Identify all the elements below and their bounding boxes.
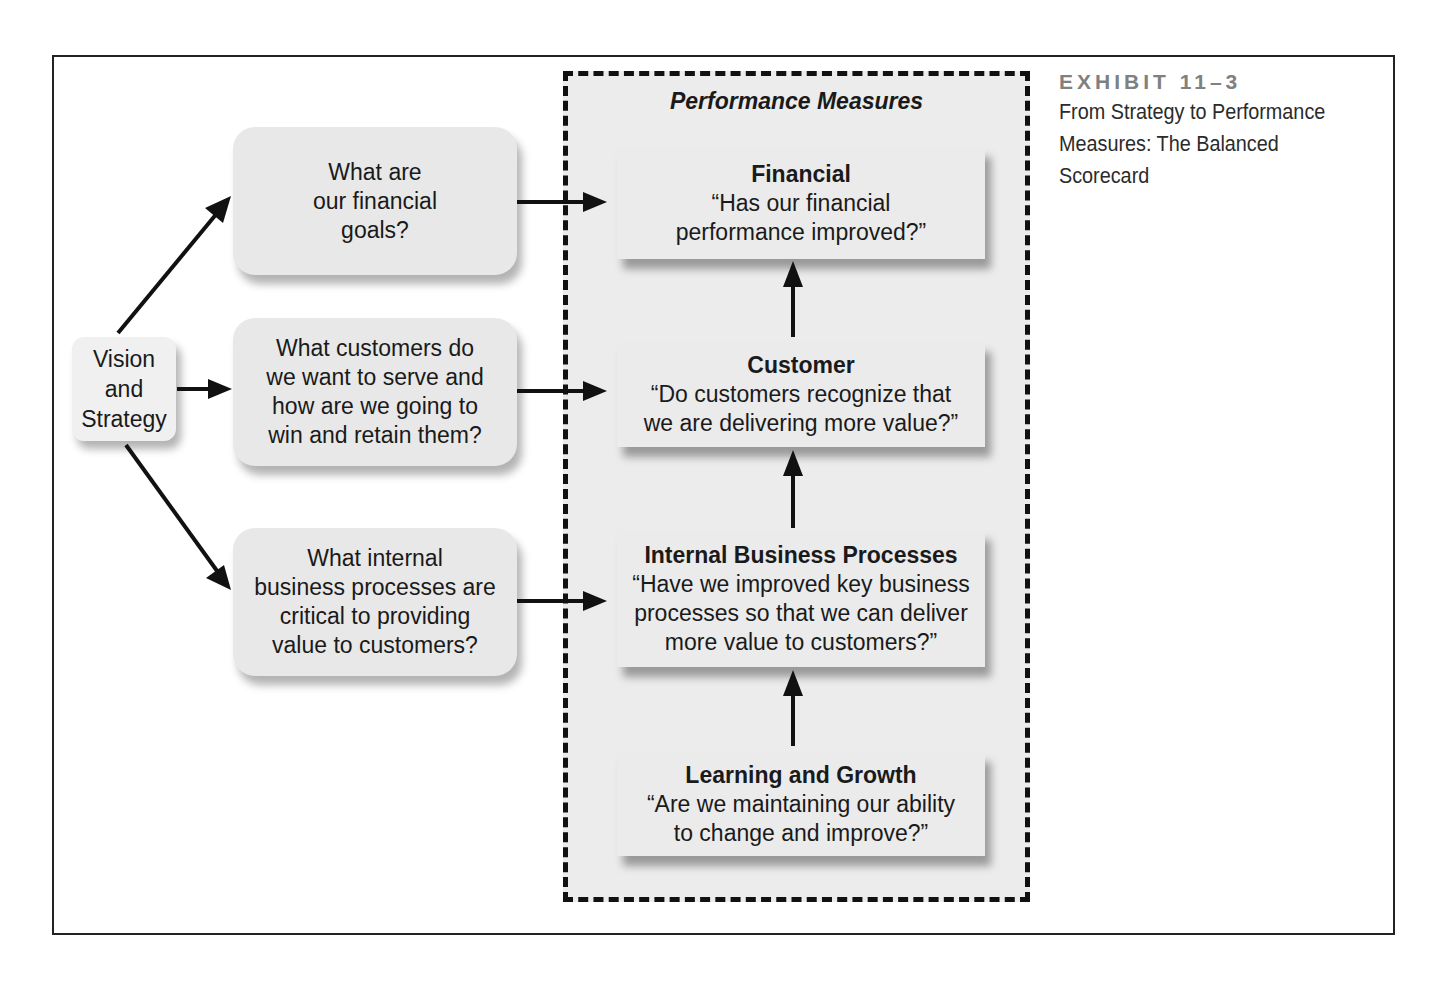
page: EXHIBIT 11–3 From Strategy to Performanc… [0,0,1447,988]
question-box-financial-goals: What are our financial goals? [233,127,517,275]
measure-question-line: “Has our financial [621,189,981,218]
vision-and-strategy-box: Vision and Strategy [72,337,176,441]
exhibit-number: EXHIBIT 11–3 [1059,68,1379,96]
question-box-customers: What customers do we want to serve and h… [233,318,517,466]
measure-title: Financial [621,160,981,189]
question-box-internal-processes: What internal business processes are cri… [233,528,517,676]
measure-question-line: processes so that we can deliver [621,599,981,628]
measure-box-financial: Financial “Has our financial performance… [617,147,985,259]
measure-question-line: “Are we maintaining our ability [621,790,981,819]
measure-question-line: to change and improve?” [621,819,981,848]
measure-title: Internal Business Processes [621,541,981,570]
exhibit-title: From Strategy to Performance Measures: T… [1059,96,1365,192]
measure-question-line: “Have we improved key business [621,570,981,599]
measure-title: Learning and Growth [621,761,981,790]
measure-box-internal-business-processes: Internal Business Processes “Have we imp… [617,530,985,667]
exhibit-caption: EXHIBIT 11–3 From Strategy to Performanc… [1059,68,1379,192]
measure-question-line: more value to customers?” [621,628,981,657]
measure-question-line: we are delivering more value?” [621,409,981,438]
measure-title: Customer [621,351,981,380]
measure-box-learning-and-growth: Learning and Growth “Are we maintaining … [617,752,985,856]
measure-box-customer: Customer “Do customers recognize that we… [617,342,985,447]
measure-question-line: “Do customers recognize that [621,380,981,409]
measure-question-line: performance improved?” [621,218,981,247]
performance-measures-title: Performance Measures [563,88,1030,115]
